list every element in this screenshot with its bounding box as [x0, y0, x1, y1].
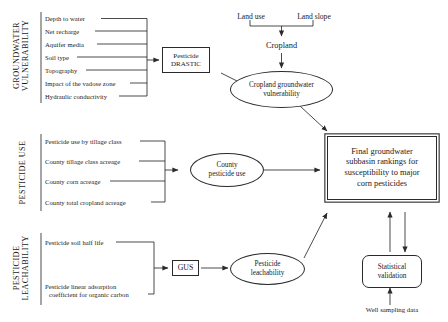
- group-caption-line2: VULNERABILITY: [21, 8, 30, 103]
- node-gus-label: GUS: [178, 264, 194, 272]
- node-land-slope: Land slope: [293, 12, 335, 21]
- diagram-canvas: GROUNDWATER VULNERABILITY Depth to water…: [0, 0, 448, 322]
- node-final-rankings-line1: Final groundwater: [351, 147, 413, 158]
- group-caption-line1: GROUNDWATER: [12, 8, 21, 103]
- vulnerability-item-impact-of-the-vadose-zone: Impact of the vadose zone: [45, 80, 115, 88]
- vulnerability-item-hydraulic-conductivity: Hydraulic conductivity: [45, 93, 107, 101]
- group-caption-pesticide-use-label: PESTICIDE USE: [18, 141, 27, 205]
- vulnerability-item-depth-to-water: Depth to water: [45, 15, 85, 23]
- node-final-groundwater-subbasin-rankings: Final groundwater subbasin rankings for …: [327, 136, 437, 200]
- node-cropland-groundwater-vulnerability: Cropland groundwater vulnerability: [230, 71, 333, 108]
- group-caption-leach-line2: LEACHABILITY: [21, 231, 30, 305]
- node-pesticide-leachability-line1: Pesticide: [255, 260, 281, 269]
- node-cropland-gw-line2: vulnerability: [263, 90, 300, 99]
- node-statistical-validation-line1: Statistical: [378, 263, 406, 272]
- node-cropland-gw-line1: Cropland groundwater: [249, 81, 314, 90]
- pesticide-use-item-county-tillage-class-acreage: County tillage class acreage: [45, 158, 120, 166]
- node-well-sampling-data: Well sampling data: [352, 306, 432, 313]
- pesticide-use-item-pesticide-use-by-tillage-class: Pesticide use by tillage class: [45, 138, 122, 146]
- node-pesticide-drastic-line1: Pesticide: [173, 52, 198, 60]
- vulnerability-item-net-recharge: Net recharge: [45, 28, 79, 36]
- vulnerability-item-soil-type: Soil type: [45, 54, 69, 62]
- leachability-item-pesticide-linear-adsorption: Pesticide linear adsorption: [45, 283, 116, 291]
- node-county-pesticide-use-line2: pesticide use: [209, 170, 246, 179]
- node-statistical-validation-line2: validation: [378, 272, 407, 281]
- group-caption-leach-line1: PESTICIDE: [12, 231, 21, 305]
- pesticide-use-item-county-total-cropland-acreage: County total cropland acreage: [45, 199, 126, 207]
- group-caption-pesticide-use: PESTICIDE USE: [18, 134, 27, 211]
- node-pesticide-drastic: Pesticide DRASTIC: [162, 47, 210, 73]
- vulnerability-item-aquifer-media: Aquifer media: [45, 41, 84, 49]
- node-statistical-validation: Statistical validation: [362, 255, 422, 288]
- node-land-use: Land use: [232, 12, 270, 21]
- node-pesticide-leachability: Pesticide leachability: [230, 253, 305, 285]
- group-caption-groundwater-vulnerability: GROUNDWATER VULNERABILITY: [12, 8, 30, 103]
- leachability-item-pesticide-soil-half-life: Pesticide soil half life: [45, 239, 104, 247]
- node-county-pesticide-use-line1: County: [216, 161, 237, 170]
- group-caption-pesticide-leachability: PESTICIDE LEACHABILITY: [12, 231, 30, 305]
- node-final-rankings-line2: subbasin rankings for: [346, 157, 418, 168]
- pesticide-use-item-county-corn-acreage: County corn acreage: [45, 178, 101, 186]
- node-pesticide-leachability-line2: leachability: [251, 269, 285, 278]
- node-final-rankings-line3: susceptibility to major: [345, 168, 420, 179]
- leachability-item-coefficient-for-organic-carbon: coefficient for organic carbon: [49, 291, 129, 299]
- node-cropland: Cropland: [253, 41, 310, 50]
- vulnerability-item-topography: Topography: [45, 67, 77, 75]
- node-final-rankings-line4: corn pesticides: [357, 179, 407, 190]
- node-gus: GUS: [172, 260, 199, 276]
- node-county-pesticide-use: County pesticide use: [190, 153, 264, 187]
- node-pesticide-drastic-line2: DRASTIC: [171, 60, 201, 68]
